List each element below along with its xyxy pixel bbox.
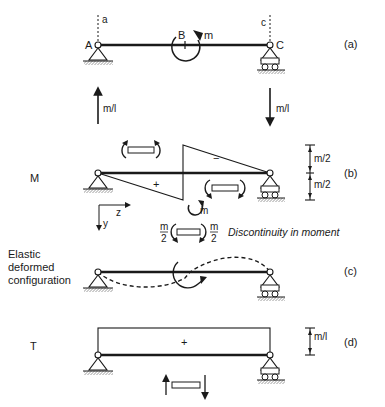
detail-moment-label: m (200, 205, 208, 216)
caption-line-3: configuration (8, 274, 71, 286)
right-fraction-denominator: 2 (211, 233, 217, 244)
dimension-upper-label: m/2 (314, 153, 331, 164)
moment-label: m (204, 29, 213, 41)
axis-z-label: z (116, 207, 121, 218)
panel-b: M + − (30, 140, 357, 244)
panel-tag-b: (b) (344, 167, 357, 179)
dimension-label: m/l (314, 331, 327, 342)
right-fraction-numerator: m (210, 221, 218, 232)
roller-support-icon (257, 352, 285, 384)
point-label-a: A (85, 39, 93, 51)
roller-support-icon (257, 170, 285, 202)
point-label-c: C (276, 39, 284, 51)
negative-moment-region (183, 145, 270, 173)
moment-arrowhead-icon (193, 30, 203, 41)
section-label-a: a (102, 14, 108, 25)
left-reaction-label: m/l (103, 103, 116, 114)
roller-support-icon (257, 269, 285, 301)
discontinuity-detail: m m 2 m 2 (160, 200, 218, 244)
shear-sign: + (181, 336, 187, 348)
positive-sign: + (153, 178, 159, 190)
axis-y-label: y (103, 218, 108, 229)
left-fraction-denominator: 2 (161, 233, 167, 244)
rotation-arrow-icon (173, 262, 203, 288)
hogging-element-icon (205, 180, 245, 199)
shear-element-icon (166, 375, 205, 396)
applied-moment-arrow-icon (172, 37, 200, 61)
sagging-element-icon (122, 140, 160, 158)
panel-c: Elastic deformed configuration (c) (8, 248, 357, 301)
panel-d: T + (30, 328, 357, 396)
quantity-label-t: T (30, 340, 37, 352)
caption-line-1: Elastic (8, 248, 41, 260)
beam-moment-diagram-figure: a c A B C m (0, 0, 385, 407)
quantity-label-m: M (30, 172, 39, 184)
section-label-c: c (261, 17, 266, 28)
right-reaction-label: m/l (276, 103, 289, 114)
rotation-arrowhead-icon (200, 276, 207, 284)
positive-moment-region (98, 173, 183, 200)
point-label-b: B (178, 29, 185, 41)
left-fraction-numerator: m (160, 221, 168, 232)
negative-sign: − (213, 152, 219, 164)
caption-line-2: deformed (8, 261, 54, 273)
panel-tag-a: (a) (344, 38, 357, 50)
panel-tag-d: (d) (344, 336, 357, 348)
panel-tag-c: (c) (344, 265, 357, 277)
dimension-lower-label: m/2 (314, 179, 331, 190)
discontinuity-caption: Discontinuity in moment (228, 226, 341, 238)
panel-a: a c A B C m (83, 14, 357, 124)
